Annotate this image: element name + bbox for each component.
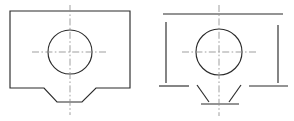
drawing-canvas	[0, 0, 294, 121]
technical-drawing-sheet	[0, 0, 294, 121]
left-view	[10, 5, 130, 115]
right-view-segment-dovetail-right-angle	[229, 85, 241, 102]
right-view-segment-dovetail-left-angle	[197, 85, 209, 102]
right-view	[159, 5, 288, 116]
right-view-broken-segments	[159, 14, 288, 104]
